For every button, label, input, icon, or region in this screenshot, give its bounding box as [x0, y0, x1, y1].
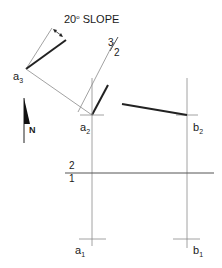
a3-slope-line: [26, 40, 66, 69]
point-label-b2: b2: [193, 121, 203, 135]
descriptive-geometry-diagram: 20o SLOPE a3 3 2 a2 b2 2 1: [0, 0, 222, 268]
a3-a2-projection-line: [26, 69, 92, 115]
fold-line-3-2: [78, 42, 114, 112]
point-label-a1: a1: [75, 244, 85, 258]
fold-label-2-top: 2: [69, 160, 75, 171]
fold-label-1-bottom: 1: [69, 173, 75, 184]
point-label-a2: a2: [80, 121, 90, 135]
slope-title: 20o SLOPE: [64, 13, 119, 25]
fold-label-2: 2: [114, 47, 120, 58]
north-arrow-icon: [24, 98, 30, 143]
b2-edge-line: [122, 104, 187, 115]
north-label: N: [29, 125, 36, 135]
a2-slope-line: [92, 85, 108, 115]
point-label-a3: a3: [13, 70, 23, 84]
point-label-b1: b1: [193, 244, 203, 258]
a3-reference-line: [26, 28, 52, 69]
diagram-canvas: 20o SLOPE a3 3 2 a2 b2 2 1: [0, 0, 222, 268]
